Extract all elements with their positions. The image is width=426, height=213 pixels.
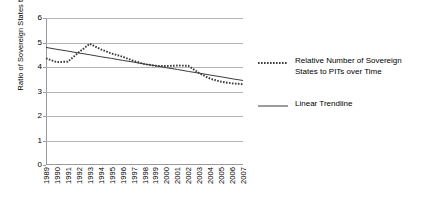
y-axis-tick-label: 2: [38, 112, 42, 120]
x-axis-tick-label: 1997: [131, 167, 139, 184]
x-axis-tick-label: 1993: [87, 167, 95, 184]
x-axis-tick-label: 2006: [229, 167, 237, 184]
chart-legend: Relative Number of Sovereign States to P…: [258, 56, 424, 133]
y-axis-tick-label: 3: [38, 88, 42, 96]
data-series-group: [46, 18, 243, 165]
x-axis-tick-label: 1992: [76, 167, 84, 184]
legend-label: Relative Number of Sovereign States to P…: [295, 56, 424, 77]
x-axis-tick-label: 1996: [120, 167, 128, 184]
chart-container: Ratio of Sovereign States to PITs 012345…: [0, 0, 426, 213]
x-axis-tick-label: 1999: [152, 167, 160, 184]
y-axis-tick-mark: [43, 165, 46, 166]
x-axis-tick-label: 1990: [54, 167, 62, 184]
y-axis-tick-label: 4: [38, 63, 42, 71]
y-axis-tick-label: 6: [38, 14, 42, 22]
x-axis-tick-label: 2005: [218, 167, 226, 184]
x-axis-tick-label: 1989: [43, 167, 51, 184]
y-axis-tick-label: 1: [38, 137, 42, 145]
x-axis-tick-label: 2002: [185, 167, 193, 184]
y-axis-title-wrapper: Ratio of Sovereign States to PITs: [0, 10, 16, 160]
x-axis-tick-label: 2003: [196, 167, 204, 184]
x-axis-labels-group: 1989199019911992199319941995199619971998…: [46, 167, 243, 211]
x-axis-tick-label: 2000: [163, 167, 171, 184]
x-axis-tick-label: 2007: [240, 167, 248, 184]
x-axis-tick-label: 2004: [207, 167, 215, 184]
legend-item[interactable]: Linear Trendline: [258, 99, 424, 111]
x-axis-tick-label: 2001: [174, 167, 182, 184]
series-line: [46, 44, 243, 84]
legend-item[interactable]: Relative Number of Sovereign States to P…: [258, 56, 424, 77]
y-axis-title: Ratio of Sovereign States to PITs: [16, 0, 25, 110]
x-axis-tick-label: 1991: [65, 167, 73, 184]
solid-line-icon: [258, 101, 288, 111]
plot-area: 0123456: [46, 18, 243, 165]
dotted-line-icon: [258, 58, 288, 68]
y-axis-tick-label: 5: [38, 39, 42, 47]
x-axis-tick-label: 1994: [98, 167, 106, 184]
x-axis-tick-label: 1998: [142, 167, 150, 184]
x-axis-tick-label: 1995: [109, 167, 117, 184]
legend-label: Linear Trendline: [295, 99, 352, 110]
